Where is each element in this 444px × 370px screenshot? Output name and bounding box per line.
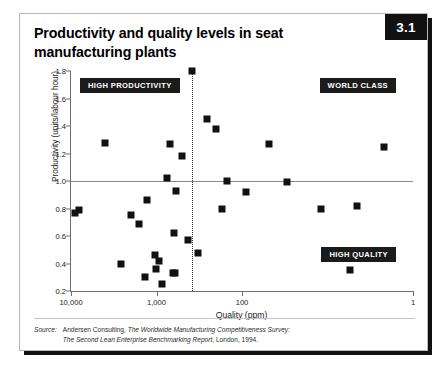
- scatter-point: [354, 202, 361, 209]
- x-axis-tick-label: 10,000: [59, 298, 82, 307]
- y-axis-tick: [66, 263, 71, 264]
- figure-panel: Productivity and quality levels in seat …: [19, 13, 428, 351]
- callout-high-productivity: HIGH PRODUCTIVITY: [80, 78, 180, 93]
- y-axis-tick-label: 0.2: [42, 287, 66, 296]
- source-note: Source: Andersen Consulting, The Worldwi…: [34, 325, 290, 345]
- x-axis-tick: [413, 291, 414, 296]
- panel-shadow-right: [428, 18, 432, 355]
- y-axis-tick-label: 1.2: [42, 149, 66, 158]
- x-axis-tick-label: 1,000: [147, 298, 166, 307]
- scatter-point: [172, 270, 179, 277]
- scatter-point: [143, 197, 150, 204]
- scatter-point: [152, 266, 159, 273]
- scatter-point: [194, 249, 201, 256]
- reference-line-vertical: [192, 71, 193, 291]
- scatter-point: [102, 139, 109, 146]
- y-axis-tick-label: 1.0: [42, 177, 66, 186]
- scatter-point: [156, 257, 163, 264]
- scatter-point: [266, 140, 273, 147]
- scatter-point: [283, 179, 290, 186]
- scatter-point: [171, 230, 178, 237]
- y-axis-tick-label: 0.6: [42, 232, 66, 241]
- callout-high-quality: HIGH QUALITY: [321, 247, 396, 262]
- source-divider: [34, 318, 415, 319]
- x-axis-tick-label: 1: [411, 298, 415, 307]
- scatter-point: [71, 209, 78, 216]
- y-axis-tick-label: 1.4: [42, 122, 66, 131]
- scatter-point: [179, 153, 186, 160]
- scatter-point: [219, 205, 226, 212]
- source-line-1: Andersen Consulting, The Worldwide Manuf…: [63, 326, 290, 333]
- y-axis-tick: [66, 208, 71, 209]
- x-axis-tick-label: 100: [236, 298, 249, 307]
- source-label: Source:: [34, 325, 57, 345]
- y-axis-tick: [66, 98, 71, 99]
- scatter-point: [142, 274, 149, 281]
- reference-line-horizontal: [71, 181, 413, 182]
- y-axis-tick: [66, 71, 71, 72]
- scatter-point: [203, 116, 210, 123]
- callout-world-class: WORLD CLASS: [320, 78, 396, 93]
- y-axis-tick-label: 1.8: [42, 67, 66, 76]
- x-axis-tick: [71, 291, 72, 296]
- scatter-point: [189, 68, 196, 75]
- x-axis-tick: [242, 291, 243, 296]
- page-title: Productivity and quality levels in seat …: [34, 24, 334, 61]
- source-text: Andersen Consulting, The Worldwide Manuf…: [63, 325, 290, 345]
- y-axis-tick: [66, 126, 71, 127]
- scatter-point: [163, 175, 170, 182]
- x-axis-tick: [157, 291, 158, 296]
- y-axis-tick-label: 0.4: [42, 259, 66, 268]
- scatter-plot-area: HIGH PRODUCTIVITY WORLD CLASS HIGH QUALI…: [70, 71, 413, 292]
- scatter-point: [118, 260, 125, 267]
- scatter-point: [242, 189, 249, 196]
- scatter-point: [158, 281, 165, 288]
- scatter-point: [213, 125, 220, 132]
- scatter-point: [127, 212, 134, 219]
- scatter-point: [223, 178, 230, 185]
- scatter-point: [380, 143, 387, 150]
- figure-number-badge: 3.1: [385, 14, 427, 40]
- panel-shadow-bottom: [24, 351, 432, 355]
- y-axis-tick: [66, 153, 71, 154]
- y-axis-tick-label: 0.8: [42, 204, 66, 213]
- scatter-point: [184, 237, 191, 244]
- scatter-point: [346, 267, 353, 274]
- scatter-point: [136, 220, 143, 227]
- scatter-point: [173, 187, 180, 194]
- y-axis-tick-label: 1.6: [42, 94, 66, 103]
- y-axis-tick: [66, 236, 71, 237]
- scatter-point: [166, 140, 173, 147]
- source-line-2: The Second Lean Enterprise Benchmarking …: [63, 336, 258, 343]
- scatter-point: [317, 205, 324, 212]
